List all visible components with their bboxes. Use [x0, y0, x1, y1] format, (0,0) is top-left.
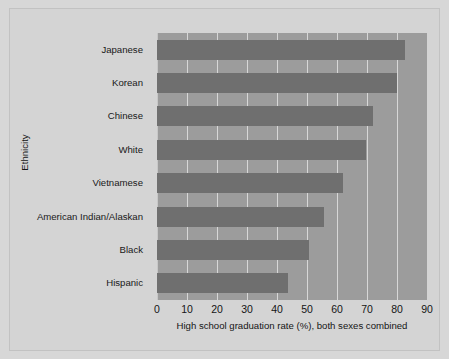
bar-chart-figure: JapaneseKoreanChineseWhiteVietnameseAmer…	[0, 0, 449, 359]
plot-area	[157, 33, 427, 300]
x-tick-label: 10	[181, 303, 193, 315]
x-tick-label: 40	[271, 303, 283, 315]
y-tick-label: White	[118, 144, 152, 155]
x-tick-label: 0	[154, 303, 160, 315]
bar	[157, 140, 366, 160]
y-tick-label: Black	[120, 244, 152, 255]
bar	[157, 240, 309, 260]
bar	[157, 106, 373, 126]
x-tick-label: 90	[421, 303, 433, 315]
bar	[157, 40, 405, 60]
y-tick-label: American Indian/Alaskan	[37, 211, 152, 222]
gridline-80	[397, 33, 398, 300]
x-tick-label: 20	[211, 303, 223, 315]
x-tick-label: 70	[361, 303, 373, 315]
y-tick-label: Vietnamese	[93, 177, 153, 188]
x-tick-label: 30	[241, 303, 253, 315]
y-axis-title: Ethnicity	[19, 108, 30, 198]
y-tick-label: Hispanic	[106, 277, 152, 288]
y-tick-label: Chinese	[108, 110, 152, 121]
y-tick-label: Japanese	[101, 44, 152, 55]
x-axis-tick-labels: 0102030405060708090	[157, 303, 427, 319]
bar	[157, 173, 343, 193]
bar	[157, 273, 288, 293]
x-tick-label: 60	[331, 303, 343, 315]
x-tick-label: 80	[391, 303, 403, 315]
x-axis-title: High school graduation rate (%), both se…	[157, 320, 427, 331]
bar	[157, 73, 397, 93]
y-tick-label: Korean	[112, 77, 152, 88]
bar	[157, 207, 324, 227]
x-tick-label: 50	[301, 303, 313, 315]
